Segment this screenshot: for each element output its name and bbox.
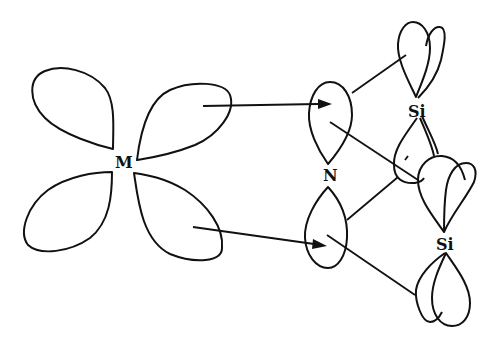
line-n-upper-to-si-lower — [330, 122, 418, 180]
arrow-upper — [203, 104, 318, 106]
orbital-diagram: M N Si Si — [0, 0, 503, 345]
si-upper-lobe-down-right2 — [422, 116, 438, 154]
metal-lobe-lower-left — [24, 172, 112, 251]
nitrogen-p-orbital: N — [305, 82, 352, 268]
nitrogen-label: N — [323, 166, 338, 185]
silicon-upper: Si — [394, 22, 445, 183]
metal-lobe-upper-left — [32, 68, 113, 149]
arrow-lower — [193, 227, 314, 244]
nitrogen-lobe-lower — [305, 187, 347, 268]
silicon-lower: Si — [416, 156, 476, 326]
line-n-lower-to-si-lower — [327, 235, 415, 295]
silicon-lower-label: Si — [436, 235, 454, 254]
si-lower-lobe-upper-back — [418, 156, 465, 232]
metal-d-orbital: M — [24, 68, 231, 260]
si-upper-lobe-front — [398, 22, 430, 97]
donation-arrows — [193, 99, 332, 249]
si-upper-lobe-back — [418, 27, 445, 98]
arrow-head-upper-icon — [318, 99, 332, 109]
line-n-lower-to-si-upper — [347, 177, 398, 220]
arrow-head-lower-icon — [312, 239, 327, 249]
si-lower-lobe-down-front — [432, 253, 470, 326]
metal-lobe-lower-right — [134, 173, 222, 260]
metal-lobe-upper-right — [137, 84, 231, 160]
small-tick — [405, 156, 408, 160]
si-lower-lobe-upper-front — [444, 163, 476, 232]
metal-label: M — [115, 153, 133, 172]
line-n-upper-to-si-upper — [352, 55, 406, 93]
